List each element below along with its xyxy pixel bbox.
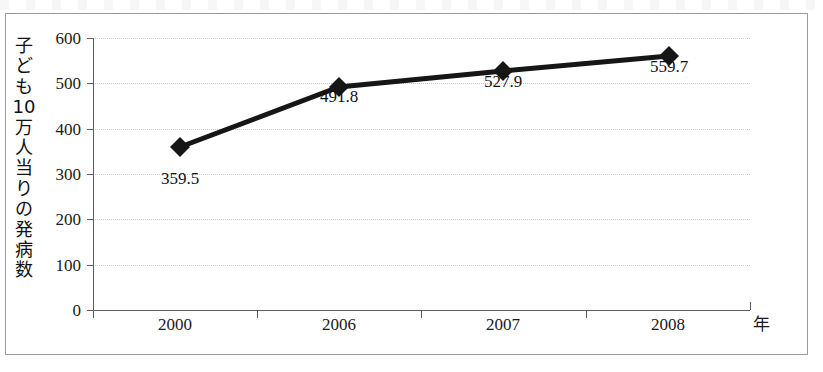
data-label-2006: 491.8 bbox=[284, 88, 394, 106]
series-marker-2000 bbox=[170, 137, 190, 157]
chart-figure: 子ども10万人当りの発病数 600 500 400 300 200 100 0 … bbox=[0, 0, 823, 372]
data-label-2008: 559.7 bbox=[614, 58, 724, 76]
data-label-2007: 527.9 bbox=[448, 73, 558, 91]
data-series bbox=[0, 0, 823, 372]
data-label-2000: 359.5 bbox=[125, 170, 235, 188]
series-line bbox=[180, 56, 669, 147]
